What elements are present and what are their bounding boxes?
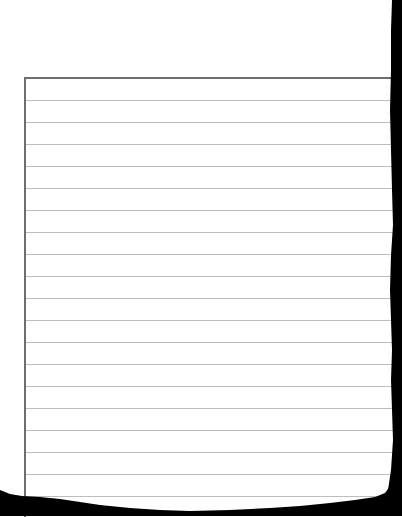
rule-line [26, 188, 396, 189]
ruled-writing-area [24, 77, 396, 517]
rule-line [26, 430, 396, 431]
rule-line [26, 474, 396, 475]
rule-line [26, 320, 396, 321]
rule-line [26, 122, 396, 123]
rule-line [26, 210, 396, 211]
rule-line [26, 364, 396, 365]
rule-line [26, 496, 396, 497]
rule-line [26, 232, 396, 233]
rule-line [26, 276, 396, 277]
rule-line [26, 342, 396, 343]
rule-line [26, 166, 396, 167]
rule-line [26, 298, 396, 299]
rule-line [26, 144, 396, 145]
rule-line [26, 254, 396, 255]
rule-line [26, 386, 396, 387]
rule-line [26, 100, 396, 101]
rule-line [26, 408, 396, 409]
rule-line [26, 452, 396, 453]
